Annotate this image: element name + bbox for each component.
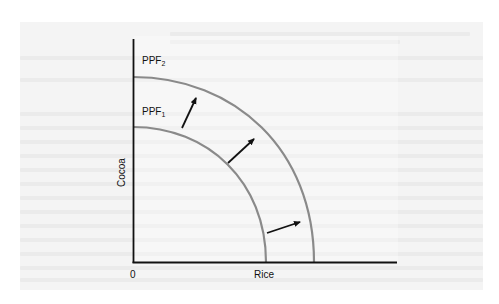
ppf-diagram (0, 0, 499, 304)
y-axis-label: Cocoa (116, 158, 127, 187)
origin-label: 0 (130, 270, 136, 280)
ppf1-label: PPF1 (142, 107, 165, 118)
x-axis-label: Rice (254, 270, 274, 280)
ppf2-label: PPF2 (142, 56, 165, 67)
plot-area (134, 36, 398, 262)
